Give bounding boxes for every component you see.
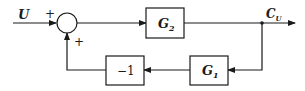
block-negate-label: −1 xyxy=(117,64,135,78)
input-label: U xyxy=(18,7,30,22)
block-diagram: U + + G2 CU G1 −1 xyxy=(0,0,305,91)
output-label: CU xyxy=(266,7,283,23)
block-g1: G1 xyxy=(190,56,228,85)
summing-junction xyxy=(57,13,77,33)
block-g2: G2 xyxy=(146,8,184,38)
plus-sign-input: + xyxy=(45,7,55,21)
block-negate: −1 xyxy=(106,56,144,85)
plus-sign-feedback: + xyxy=(74,35,84,49)
